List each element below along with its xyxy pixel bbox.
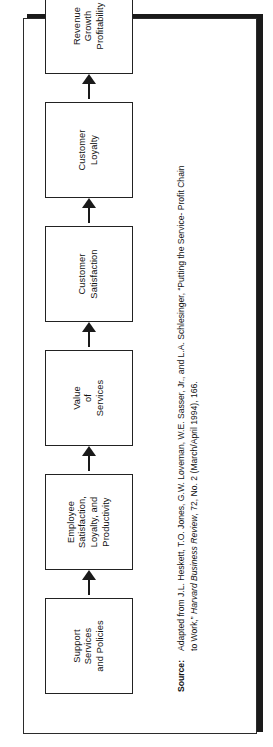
source-line-1: Adapted from J.L. Heskett, T.O. Jones, G… bbox=[175, 60, 188, 651]
node-label-line: Satisfaction bbox=[89, 249, 101, 298]
source-line-2-prefix: to Work,” bbox=[189, 614, 199, 651]
source-citation: Source: Adapted from J.L. Heskett, T.O. … bbox=[175, 60, 200, 692]
node-label-line: Satisfaction, bbox=[77, 496, 89, 548]
source-line-2-suffix: , 72, No. 2 (March/April 1994), 166. bbox=[189, 381, 199, 515]
arrow-right-icon bbox=[79, 570, 99, 598]
source-text: Adapted from J.L. Heskett, T.O. Jones, G… bbox=[175, 60, 200, 651]
arrow-right-icon bbox=[79, 322, 99, 350]
node-value-of-services[interactable]: Value of Services bbox=[45, 350, 133, 446]
arrow-head bbox=[82, 322, 96, 332]
node-label-line: Services bbox=[83, 628, 95, 664]
arrow-right-icon bbox=[79, 446, 99, 474]
node-label-line: Services bbox=[95, 380, 107, 416]
node-label-line: of bbox=[83, 394, 95, 402]
node-label-line: Customer bbox=[77, 129, 89, 170]
rotated-diagram-stage: Support Services and Policies Employee S… bbox=[23, 18, 257, 734]
node-revenue-growth-profitability[interactable]: Revenue Growth Profitability bbox=[45, 0, 133, 74]
arrow-head bbox=[82, 198, 96, 208]
node-customer-satisfaction[interactable]: Customer Satisfaction bbox=[45, 226, 133, 322]
arrow-head bbox=[82, 570, 96, 580]
node-employee-satisfaction-loyalty-productivity[interactable]: Employee Satisfaction, Loyalty, and Prod… bbox=[45, 474, 133, 570]
source-line-1-text: Adapted from J.L. Heskett, T.O. Jones, G… bbox=[176, 165, 186, 651]
node-label-line: Customer bbox=[77, 253, 89, 294]
node-label-line: Support bbox=[72, 629, 84, 662]
node-label-line: Profitability bbox=[95, 3, 107, 50]
arrow-head bbox=[82, 446, 96, 456]
node-label-line: Value bbox=[72, 386, 84, 410]
node-label-line: Employee bbox=[66, 501, 78, 543]
service-profit-chain: Support Services and Policies Employee S… bbox=[37, 58, 141, 694]
source-line-2: to Work,” Harvard Business Review, 72, N… bbox=[188, 60, 201, 651]
node-label-line: and Policies bbox=[95, 620, 107, 671]
node-label-line: Productivity bbox=[101, 497, 113, 546]
node-support-services-and-policies[interactable]: Support Services and Policies bbox=[45, 598, 133, 694]
node-customer-loyalty[interactable]: Customer Loyalty bbox=[45, 102, 133, 198]
node-label-line: Growth bbox=[83, 11, 95, 42]
figure-frame: Support Services and Policies Employee S… bbox=[23, 18, 257, 734]
node-label-line: Revenue bbox=[72, 7, 84, 45]
arrow-right-icon bbox=[79, 74, 99, 102]
node-label-line: Loyalty, and bbox=[89, 497, 101, 548]
arrow-right-icon bbox=[79, 198, 99, 226]
source-journal-title: Harvard Business Review bbox=[189, 516, 199, 614]
source-label: Source: bbox=[175, 651, 188, 692]
arrow-head bbox=[82, 74, 96, 84]
node-label-line: Loyalty bbox=[89, 135, 101, 165]
figure-page: Support Services and Policies Employee S… bbox=[0, 0, 273, 747]
